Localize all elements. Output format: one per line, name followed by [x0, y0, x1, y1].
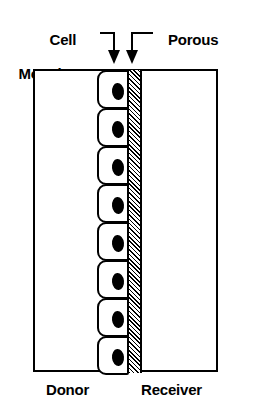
cell-monolayer-arrow-icon — [108, 50, 120, 64]
receiver-compartment-label: Receiver — [141, 381, 202, 398]
cell-nucleus — [111, 82, 125, 100]
cell-monolayer-label-line1: Cell — [50, 31, 77, 48]
porous-support-label-line1: Porous — [168, 31, 218, 48]
epithelial-cell — [97, 146, 129, 185]
donor-compartment-label: Donor — [46, 381, 89, 398]
epithelial-cell — [97, 222, 129, 261]
cell-monolayer-leader-vertical — [113, 32, 115, 52]
cell-monolayer — [97, 70, 129, 373]
epithelial-cell — [97, 336, 129, 375]
cell-nucleus — [111, 196, 125, 214]
cell-nucleus — [111, 310, 125, 328]
epithelial-cell — [97, 298, 129, 337]
porous-support-arrow-icon — [126, 50, 138, 64]
epithelial-cell — [97, 70, 129, 109]
epithelial-cell — [97, 184, 129, 223]
diffusion-chamber — [33, 69, 218, 372]
porous-support-leader-vertical — [131, 32, 133, 52]
epithelial-cell — [97, 108, 129, 147]
cell-nucleus — [111, 120, 125, 138]
cell-nucleus — [111, 158, 125, 176]
epithelial-cell — [97, 260, 129, 299]
figure-canvas: Cell Monolayer Porous Support — [0, 0, 257, 415]
cell-nucleus — [111, 234, 125, 252]
cell-nucleus — [111, 272, 125, 290]
cell-nucleus — [111, 348, 125, 366]
porous-support-leader-horizontal — [131, 32, 153, 34]
porous-support-membrane — [127, 70, 142, 373]
